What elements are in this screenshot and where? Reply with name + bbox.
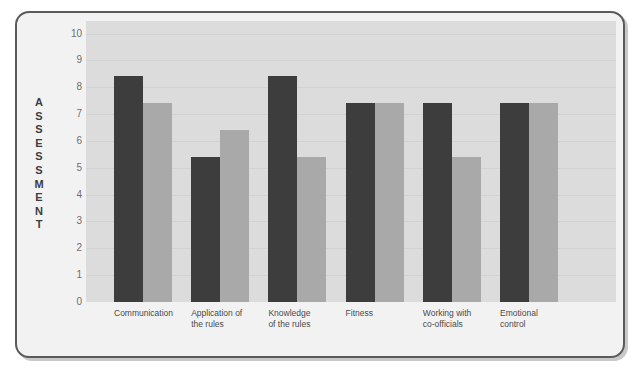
y-axis-title-letter: A <box>30 96 48 110</box>
bar <box>220 130 249 302</box>
gridline <box>86 34 616 35</box>
x-axis-category-label: Working with co-officials <box>423 308 472 330</box>
y-axis-title-letter: S <box>30 110 48 124</box>
gridline <box>86 60 616 61</box>
bar <box>375 103 404 302</box>
y-axis-tick-label: 2 <box>54 243 82 253</box>
bar <box>452 157 481 302</box>
y-axis-title-letter: S <box>30 150 48 164</box>
x-axis-category-label: Fitness <box>346 308 373 319</box>
y-axis-tick-label: 0 <box>54 297 82 307</box>
bar <box>143 103 172 302</box>
x-axis-category-label: Knowledge of the rules <box>268 308 310 330</box>
bar <box>297 157 326 302</box>
y-axis-tick-label: 10 <box>54 29 82 39</box>
bar <box>500 103 529 302</box>
y-axis-title-letter: E <box>30 137 48 151</box>
x-axis-category-label: Communication <box>114 308 173 319</box>
bar <box>268 76 297 302</box>
y-axis-tick-label: 7 <box>54 109 82 119</box>
x-axis-category-label: Emotional control <box>500 308 538 330</box>
bar <box>114 76 143 302</box>
y-axis-title-letter: S <box>30 164 48 178</box>
bar <box>346 103 375 302</box>
plot-area <box>86 21 616 302</box>
y-axis-ticks: 109876543210 <box>50 0 82 373</box>
y-axis-title-letter: M <box>30 178 48 192</box>
x-axis-category-label: Application of the rules <box>191 308 242 330</box>
bar <box>529 103 558 302</box>
y-axis-tick-label: 5 <box>54 163 82 173</box>
bar-chart-figure: ASSESSMENT 109876543210 CommunicationApp… <box>0 0 641 373</box>
y-axis-title-letter: T <box>30 218 48 232</box>
y-axis-tick-label: 3 <box>54 216 82 226</box>
y-axis-title-letter: S <box>30 123 48 137</box>
y-axis-tick-label: 6 <box>54 136 82 146</box>
gridline <box>86 87 616 88</box>
y-axis-tick-label: 8 <box>54 82 82 92</box>
y-axis-title: ASSESSMENT <box>30 96 48 232</box>
y-axis-tick-label: 9 <box>54 55 82 65</box>
bar <box>423 103 452 302</box>
y-axis-tick-label: 4 <box>54 190 82 200</box>
y-axis-tick-label: 1 <box>54 270 82 280</box>
bar <box>191 157 220 302</box>
y-axis-title-letter: N <box>30 205 48 219</box>
y-axis-title-letter: E <box>30 191 48 205</box>
